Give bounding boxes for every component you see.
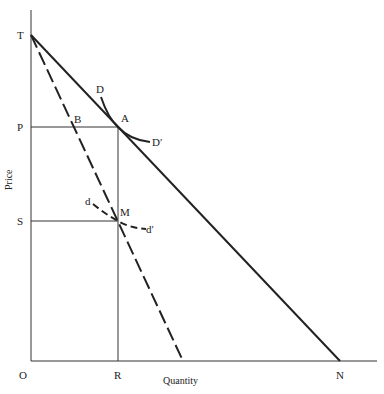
label-P: P: [17, 121, 23, 133]
price-quantity-diagram: T P S O R N B A M D D′ d d′ Quantity Pri…: [0, 0, 384, 394]
label-S: S: [17, 215, 23, 227]
y-axis-title: Price: [3, 169, 14, 190]
label-A: A: [121, 112, 129, 124]
label-d-prime: d′: [146, 223, 154, 235]
label-D: D: [96, 83, 104, 95]
dashed-line-T: [31, 35, 183, 361]
label-N: N: [336, 369, 344, 381]
label-R: R: [114, 369, 122, 381]
x-axis-title: Quantity: [163, 375, 198, 386]
label-d: d: [85, 195, 91, 207]
label-D-prime: D′: [152, 136, 162, 148]
label-T: T: [17, 29, 24, 41]
demand-line-TN: [31, 35, 340, 361]
label-M: M: [120, 206, 130, 218]
label-B: B: [74, 113, 81, 125]
label-O: O: [19, 369, 27, 381]
